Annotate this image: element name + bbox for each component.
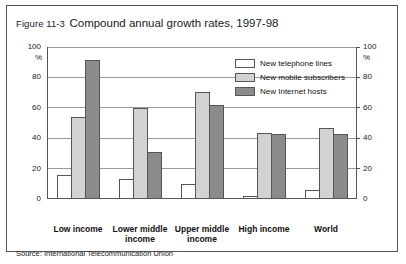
y-tick-left-0: 0 — [15, 194, 41, 203]
tick-mark-right-40 — [357, 138, 360, 139]
figure-number: Figure 11-3 — [16, 18, 65, 29]
category-label: Lower middle income — [109, 224, 171, 244]
bar-group — [243, 48, 285, 199]
bar — [257, 133, 272, 199]
tick-mark-right-100 — [357, 47, 360, 48]
y-tick-left-40: 40 — [15, 133, 41, 142]
y-tick-right-0: 0 — [363, 194, 389, 203]
bar — [147, 152, 162, 199]
y-tick-left-100: 100 — [15, 42, 41, 51]
category-label: Upper middle income — [171, 224, 233, 244]
bar — [209, 105, 224, 199]
y-axis-unit-right: % — [363, 53, 370, 62]
tick-mark-right-80 — [357, 77, 360, 78]
bar — [181, 184, 196, 199]
plot-area: 100 80 60 40 20 0 % 100 80 60 40 20 0 % … — [7, 35, 397, 221]
category-label: High income — [233, 224, 295, 244]
y-tick-right-40: 40 — [363, 133, 389, 142]
bar — [57, 175, 72, 199]
figure-title-text: Compound annual growth rates, 1997-98 — [69, 17, 278, 29]
tick-mark-right-60 — [357, 107, 360, 108]
y-tick-right-20: 20 — [363, 164, 389, 173]
bar — [85, 60, 100, 199]
y-tick-right-60: 60 — [363, 103, 389, 112]
bar-groups — [47, 47, 357, 199]
y-tick-left-60: 60 — [15, 103, 41, 112]
bar — [333, 134, 348, 199]
bar — [319, 128, 334, 199]
figure-container: Figure 11-3 Compound annual growth rates… — [6, 5, 398, 252]
bar-group — [305, 48, 347, 199]
category-label: Low income — [47, 224, 109, 244]
bar — [195, 92, 210, 199]
bar — [271, 134, 286, 199]
bar — [305, 190, 320, 199]
y-tick-right-80: 80 — [363, 72, 389, 81]
tick-mark-right-20 — [357, 168, 360, 169]
source-note: Source: International Telecommunication … — [16, 249, 173, 258]
y-tick-right-100: 100 — [363, 42, 389, 51]
bar-group — [181, 48, 223, 199]
y-axis-unit-left: % — [35, 53, 42, 62]
bar-group — [57, 48, 99, 199]
bar — [119, 179, 134, 199]
bar-group — [119, 48, 161, 199]
bar — [243, 196, 258, 199]
y-tick-left-80: 80 — [15, 72, 41, 81]
y-tick-left-20: 20 — [15, 164, 41, 173]
category-label: World — [295, 224, 357, 244]
x-axis-categories: Low incomeLower middle incomeUpper middl… — [47, 224, 357, 244]
bar — [71, 117, 86, 199]
bar — [133, 108, 148, 199]
figure-title: Figure 11-3 Compound annual growth rates… — [16, 13, 279, 31]
